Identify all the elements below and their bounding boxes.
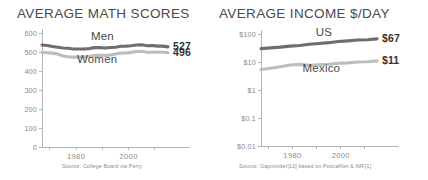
y-tick-label: 600 [24,29,37,38]
y-tick-label: 500 [24,48,37,57]
y-tick-label: $1 [248,86,256,95]
x-tick-label: 2000 [120,152,138,161]
y-tick-label: $10 [243,58,256,67]
series-inline-label: Men [91,30,114,42]
series-inline-label: Mexico [303,62,341,74]
y-tick-label: $0.1 [241,114,256,123]
y-tick-label: 200 [24,105,37,114]
x-tick-label: 2000 [332,151,350,160]
chart-plot-average-income: $100$10$1$0.1$0.0119802000USMexico$67$11 [214,0,428,180]
end-value-label: $11 [382,54,399,66]
chart-panel-math-scores: AVERAGE MATH SCORES 60050040030020010001… [0,0,214,180]
chart-panel-average-income: AVERAGE INCOME $/DAY $100$10$1$0.1$0.011… [214,0,428,180]
y-tick-label: $0.01 [237,142,256,151]
y-tick-label: 400 [24,67,37,76]
series-line-us [261,39,377,49]
chart-plot-math-scores: 600500400300200100019802000MenWomen52749… [0,0,214,180]
end-value-label: $67 [382,32,400,44]
series-inline-label: US [316,26,333,38]
x-tick-label: 1980 [67,152,85,161]
series-inline-label: Women [77,53,117,65]
figure-root: AVERAGE MATH SCORES 60050040030020010001… [0,0,428,180]
y-tick-label: 100 [24,124,37,133]
source-note-average-income: Source: Gapminder[10] based on PovcalNet… [239,163,371,169]
y-tick-label: 300 [24,86,37,95]
y-tick-label: 0 [33,143,37,152]
x-tick-label: 1980 [283,151,301,160]
series-line-men [42,45,168,49]
source-note-math-scores: Source: College Board via Perry [62,163,142,169]
y-tick-label: $100 [239,30,256,39]
end-value-label: 496 [173,46,191,58]
